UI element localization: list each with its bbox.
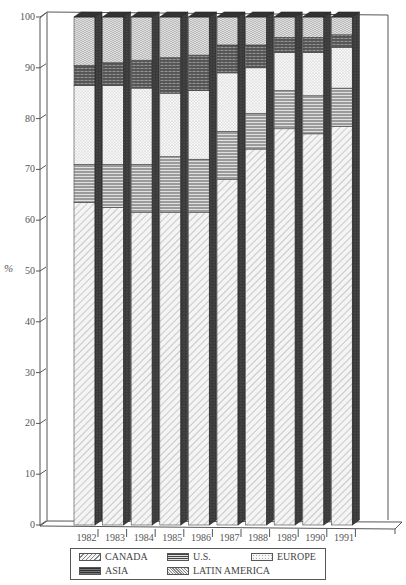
bar-segment-asia bbox=[274, 37, 295, 52]
y-tick-label: 80 bbox=[25, 113, 35, 124]
bar-1991 bbox=[331, 12, 359, 525]
bar-segment-europe bbox=[246, 68, 267, 114]
y-tick-label: 60 bbox=[25, 214, 35, 225]
bar-1982 bbox=[74, 12, 102, 525]
x-tick-label: 1986 bbox=[191, 532, 211, 543]
bar-segment-europe bbox=[331, 47, 352, 88]
bar-segment-europe bbox=[188, 91, 209, 160]
bar-segment-u-s- bbox=[160, 157, 181, 213]
y-tick-label: 100 bbox=[20, 11, 35, 22]
bar-1985 bbox=[160, 12, 188, 525]
bar-segment-europe bbox=[303, 53, 324, 96]
bar-1988 bbox=[246, 12, 274, 525]
bar-segment-asia bbox=[246, 45, 267, 68]
bar-segment-canada bbox=[160, 213, 181, 525]
legend-label: LATIN AMERICA bbox=[193, 565, 270, 576]
legend-item-asia: ASIA bbox=[79, 565, 128, 576]
bar-segment-u-s- bbox=[331, 88, 352, 126]
legend-item-canada: CANADA bbox=[79, 551, 148, 562]
bar-segment-u-s- bbox=[74, 164, 95, 202]
bar-segment-latin-america bbox=[188, 17, 209, 55]
bar-segment-asia bbox=[160, 58, 181, 94]
bar-segment-canada bbox=[217, 180, 238, 525]
legend-label: ASIA bbox=[105, 565, 128, 576]
legend-item-latin-america: LATIN AMERICA bbox=[167, 565, 270, 576]
bar-1983 bbox=[103, 12, 131, 525]
bar-segment-canada bbox=[188, 213, 209, 525]
bar-1984 bbox=[131, 12, 159, 525]
bar-segment-asia bbox=[103, 63, 124, 86]
bar-segment-latin-america bbox=[131, 17, 152, 60]
legend-label: U.S. bbox=[193, 551, 211, 562]
bar-segment-europe bbox=[274, 53, 295, 91]
bar-segment-asia bbox=[188, 55, 209, 91]
bar-segment-europe bbox=[74, 86, 95, 165]
bar-segment-latin-america bbox=[303, 17, 324, 37]
y-tick-label: 70 bbox=[25, 163, 35, 174]
x-tick-label: 1989 bbox=[277, 532, 297, 543]
legend-item-us: U.S. bbox=[167, 551, 211, 562]
x-tick-label: 1985 bbox=[162, 532, 182, 543]
y-axis-label: % bbox=[4, 262, 13, 274]
asia-swatch-icon bbox=[79, 567, 101, 575]
bar-segment-canada bbox=[131, 213, 152, 525]
legend-item-europe: EUROPE bbox=[251, 551, 316, 562]
y-tick-label: 40 bbox=[25, 316, 35, 327]
x-axis-labels: 1982198319841985198619871988198919901991 bbox=[77, 529, 356, 543]
legend-label: CANADA bbox=[105, 551, 148, 562]
stacked-bar-chart: 0102030405060708090100 19821983198419851… bbox=[0, 0, 406, 585]
x-tick-label: 1983 bbox=[105, 532, 125, 543]
bars-group bbox=[74, 12, 359, 525]
bar-1990 bbox=[303, 12, 331, 525]
bar-segment-asia bbox=[217, 45, 238, 73]
bar-segment-latin-america bbox=[217, 17, 238, 45]
bar-segment-latin-america bbox=[160, 17, 181, 58]
x-tick-label: 1982 bbox=[77, 532, 97, 543]
bar-segment-u-s- bbox=[131, 164, 152, 212]
bar-segment-latin-america bbox=[74, 17, 95, 65]
bar-segment-u-s- bbox=[188, 159, 209, 212]
bar-segment-canada bbox=[303, 134, 324, 525]
y-tick-label: 50 bbox=[25, 265, 35, 276]
bar-1986 bbox=[188, 12, 216, 525]
bar-segment-latin-america bbox=[274, 17, 295, 37]
bar-segment-asia bbox=[331, 35, 352, 48]
y-tick-label: 10 bbox=[25, 468, 35, 479]
bar-segment-canada bbox=[246, 149, 267, 525]
bar-segment-u-s- bbox=[303, 96, 324, 134]
x-tick-label: 1988 bbox=[248, 532, 268, 543]
bar-segment-latin-america bbox=[331, 17, 352, 35]
bar-segment-canada bbox=[74, 202, 95, 525]
bar-segment-asia bbox=[74, 65, 95, 85]
latin-america-swatch-icon bbox=[167, 567, 189, 575]
bar-segment-canada bbox=[331, 126, 352, 525]
bar-segment-u-s- bbox=[103, 164, 124, 207]
x-tick-label: 1991 bbox=[334, 532, 354, 543]
bar-segment-u-s- bbox=[246, 114, 267, 150]
bar-1989 bbox=[274, 12, 302, 525]
legend: CANADA U.S. EUROPE ASIA LATIN AMERICA bbox=[70, 548, 326, 580]
bar-segment-europe bbox=[217, 73, 238, 131]
y-tick-label: 20 bbox=[25, 417, 35, 428]
bar-segment-asia bbox=[303, 37, 324, 52]
bar-1987 bbox=[217, 12, 245, 525]
y-tick-label: 30 bbox=[25, 367, 35, 378]
x-tick-label: 1984 bbox=[134, 532, 154, 543]
y-tick-label: 90 bbox=[25, 62, 35, 73]
bar-segment-europe bbox=[131, 88, 152, 164]
legend-label: EUROPE bbox=[277, 551, 316, 562]
bar-segment-u-s- bbox=[274, 91, 295, 129]
bar-segment-canada bbox=[103, 208, 124, 526]
x-tick-label: 1990 bbox=[305, 532, 325, 543]
canada-swatch-icon bbox=[79, 553, 101, 561]
x-tick-label: 1987 bbox=[220, 532, 240, 543]
bar-segment-latin-america bbox=[103, 17, 124, 63]
us-swatch-icon bbox=[167, 553, 189, 561]
bar-segment-europe bbox=[103, 86, 124, 165]
y-tick-label: 0 bbox=[30, 519, 35, 530]
europe-swatch-icon bbox=[251, 553, 273, 561]
bar-segment-asia bbox=[131, 60, 152, 88]
bar-segment-u-s- bbox=[217, 131, 238, 179]
bar-segment-europe bbox=[160, 93, 181, 157]
bar-segment-latin-america bbox=[246, 17, 267, 45]
